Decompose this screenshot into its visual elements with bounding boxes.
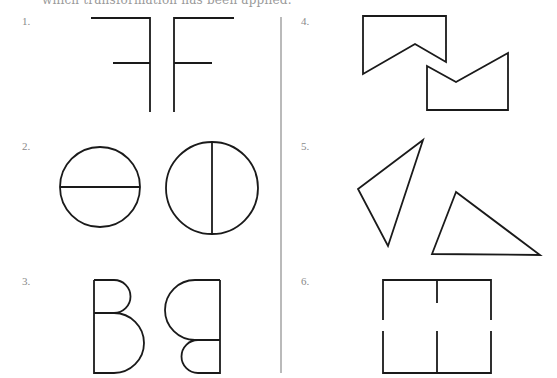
f-shape [174, 18, 234, 112]
figure-4-pentagons [363, 16, 508, 110]
reversed-f-shape [91, 18, 150, 112]
figures-canvas [0, 0, 557, 378]
lower-notched-pentagon [427, 53, 508, 110]
figure-1-mirrored-f [91, 18, 234, 112]
upper-notched-pentagon [363, 16, 446, 74]
figure-6-split-rectangle [383, 280, 491, 373]
b-shape [94, 280, 144, 373]
figure-2-circles [60, 142, 258, 234]
tilted-triangle [358, 140, 423, 246]
figure-3-b-shapes [94, 280, 220, 373]
rotated-b-shape [165, 280, 220, 373]
figure-5-triangles [358, 140, 540, 255]
base-triangle [432, 192, 540, 255]
